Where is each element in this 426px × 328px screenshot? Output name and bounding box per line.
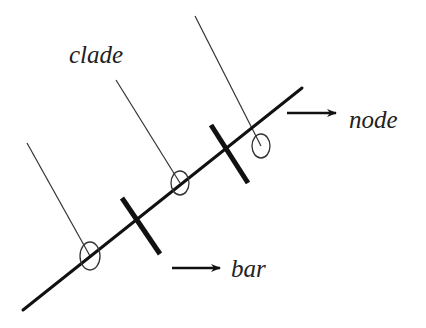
bar-label: bar — [231, 256, 266, 281]
branch-lines — [27, 16, 261, 256]
branch-3-line — [195, 16, 261, 146]
cladogram-diagram — [0, 0, 426, 328]
node-circles — [80, 134, 270, 270]
node-label: node — [349, 107, 398, 132]
pointer-arrows — [172, 113, 336, 268]
branch-2-line — [116, 80, 180, 183]
clade-label: clade — [69, 42, 123, 67]
branch-1-line — [27, 143, 90, 256]
